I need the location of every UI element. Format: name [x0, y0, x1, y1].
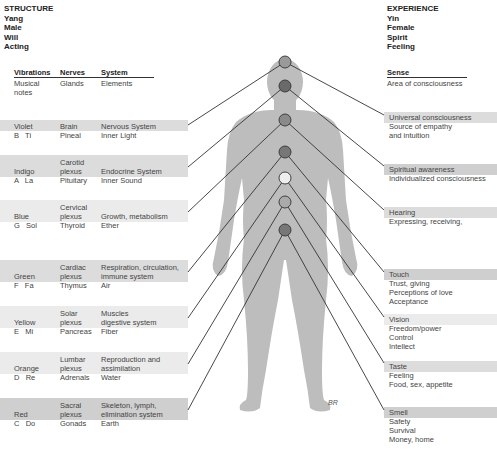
structure-line: Yang [4, 14, 53, 24]
sense-label: Touch [389, 270, 453, 279]
row-blue-nerve1: Cervical [60, 203, 87, 212]
row-orange-color: Orange [14, 364, 39, 373]
sub-glands: Glands [60, 79, 84, 88]
row-red-nerve1: Sacral [60, 401, 81, 410]
right-row-taste: Taste Feeling Food, sex, appetite [389, 362, 453, 389]
sub-musical-notes: Musical notes [14, 79, 39, 97]
sense-detail: Source of empathy [389, 122, 472, 131]
row-red-system2: elimination system [101, 410, 163, 419]
row-yellow-nerve2: plexus [60, 318, 82, 327]
row-violet-element: Inner Light [101, 131, 136, 140]
row-orange-element: Water [101, 373, 121, 382]
chakra-crown-icon [279, 56, 291, 68]
right-row-touch: Touch Trust, giving Perceptions of love … [389, 270, 453, 306]
row-blue-note: G Sol [14, 221, 37, 230]
chakra-root-icon [279, 224, 291, 236]
row-indigo-note: A La [14, 176, 33, 185]
sense-detail: Trust, giving [389, 279, 453, 288]
row-green-note: F Fa [14, 281, 34, 290]
sense-detail: Individualized consciousness [389, 174, 486, 183]
sense-detail: and intuition [389, 131, 472, 140]
row-indigo-element: Inner Sound [101, 176, 142, 185]
row-red-element: Earth [101, 419, 119, 428]
row-yellow-system1: Muscles [101, 309, 129, 318]
sense-detail: Feeling [389, 371, 453, 380]
right-row-spiritual: Spiritual awareness Individualized consc… [389, 165, 486, 183]
col-sense: Sense [387, 68, 409, 77]
row-blue-color: Blue [14, 212, 29, 221]
chakra-brow-icon [279, 80, 291, 92]
left-header-rule [14, 77, 154, 78]
experience-line: Female [387, 23, 439, 33]
row-violet-nerve: Brain [60, 122, 78, 131]
sense-detail: Intellect [389, 342, 442, 351]
row-red-gland: Gonads [60, 419, 86, 428]
sense-label: Hearing [389, 208, 462, 217]
row-blue-gland: Thyroid [60, 221, 85, 230]
right-row-universal: Universal consciousness Source of empath… [389, 113, 472, 140]
structure-line: Will [4, 33, 53, 43]
experience-header: EXPERIENCE Yin Female Spirit Feeling [387, 4, 439, 52]
structure-line: Acting [4, 42, 53, 52]
structure-title: STRUCTURE [4, 4, 53, 14]
sense-label: Smell [389, 408, 434, 417]
row-orange-system2: assimilation [101, 364, 140, 373]
sense-detail: Money, home [389, 435, 434, 444]
row-indigo-nerve1: Carotid [60, 158, 84, 167]
right-row-smell: Smell Safety Survival Money, home [389, 408, 434, 444]
sense-label: Universal consciousness [389, 113, 472, 122]
row-orange-system1: Reproduction and [101, 355, 160, 364]
row-red-system1: Skeleton, lymph, [101, 401, 156, 410]
right-header-rule [387, 77, 467, 78]
row-violet-note: B Ti [14, 131, 31, 140]
row-blue-system: Growth, metabolism [101, 212, 168, 221]
row-violet-system: Nervous System [101, 122, 156, 131]
row-red-color: Red [14, 410, 28, 419]
row-orange-nerve2: plexus [60, 364, 82, 373]
row-yellow-element: Fiber [101, 327, 118, 336]
row-violet-color: Violet [14, 122, 33, 131]
row-blue-nerve2: plexus [60, 212, 82, 221]
chakra-heart-icon [279, 146, 291, 158]
experience-title: EXPERIENCE [387, 4, 439, 14]
row-yellow-gland: Pancreas [60, 327, 92, 336]
right-row-vision: Vision Freedom/power Control Intellect [389, 315, 442, 351]
sub-elements: Elements [101, 79, 132, 88]
sense-detail: Food, sex, appetite [389, 380, 453, 389]
col-system: System [101, 68, 128, 77]
row-green-nerve1: Cardiac [60, 263, 86, 272]
row-yellow-nerve1: Solar [60, 309, 78, 318]
row-orange-nerve1: Lumbar [60, 355, 85, 364]
row-green-nerve2: plexus [60, 272, 82, 281]
row-indigo-nerve2: plexus [60, 167, 82, 176]
sub-area-of-consciousness: Area of consciousness [387, 79, 462, 88]
row-indigo-color: Indigo [14, 167, 34, 176]
col-vibrations: Vibrations [14, 68, 51, 77]
sense-detail: Safety [389, 417, 434, 426]
row-blue-element: Ether [101, 221, 119, 230]
row-violet-gland: Pineal [60, 131, 81, 140]
sense-detail: Acceptance [389, 297, 453, 306]
sense-detail: Control [389, 333, 442, 342]
row-green-color: Green [14, 272, 35, 281]
chakra-solar-plexus-icon [279, 172, 291, 184]
row-green-system2: immune system [101, 272, 154, 281]
row-orange-gland: Adrenals [60, 373, 90, 382]
chakra-sacral-icon [279, 196, 291, 208]
experience-line: Spirit [387, 33, 439, 43]
structure-header: STRUCTURE Yang Male Will Acting [4, 4, 53, 52]
sense-detail: Perceptions of love [389, 288, 453, 297]
experience-line: Yin [387, 14, 439, 24]
right-row-hearing: Hearing Expressing, receiving, [389, 208, 462, 226]
experience-line: Feeling [387, 42, 439, 52]
row-red-nerve2: plexus [60, 410, 82, 419]
row-green-gland: Thymus [60, 281, 87, 290]
row-orange-note: D Re [14, 373, 35, 382]
sense-label: Vision [389, 315, 442, 324]
sense-label: Taste [389, 362, 453, 371]
structure-line: Male [4, 23, 53, 33]
sense-detail: Freedom/power [389, 324, 442, 333]
sense-detail: Expressing, receiving, [389, 217, 462, 226]
row-yellow-system2: digestive system [101, 318, 156, 327]
row-yellow-note: E Mi [14, 327, 33, 336]
